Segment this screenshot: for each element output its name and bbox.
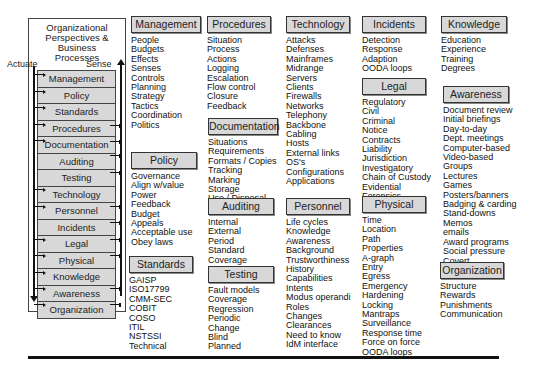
section-title: Incidents [362, 16, 426, 33]
actuate-arrow-line [33, 66, 35, 298]
sense-arrow-icon [110, 222, 120, 223]
list-item: Coverage [208, 256, 274, 265]
sense-arrow-icon [110, 255, 120, 256]
section-personnel: Personnel Life cycles Knowledge Awarenes… [286, 198, 350, 350]
actuate-arrow-icon [34, 239, 44, 240]
section-incidents: Incidents Detection Response Adaption OO… [362, 16, 426, 74]
section-organization: Organization Structure Rewards Punishmen… [440, 262, 504, 320]
layer-policy: Policy [37, 88, 116, 105]
section-title: Auditing [208, 198, 274, 215]
section-documentation: Documentation Situations Requirements Fo… [208, 118, 278, 204]
layer-organization: Organization [37, 302, 116, 319]
layer-management: Management [37, 70, 116, 88]
section-title: Knowledge [441, 16, 507, 33]
actuate-arrow-icon [34, 91, 44, 92]
section-awareness: Awareness Document review Initial briefi… [443, 86, 509, 266]
sense-arrow-line [120, 64, 122, 296]
layer-standards: Standards [37, 104, 116, 121]
sense-arrow-icon [110, 141, 120, 142]
sense-label: Sense [86, 59, 112, 69]
layer-knowledge: Knowledge [37, 269, 116, 286]
section-title: Standards [129, 256, 193, 273]
list-item: Planned [208, 342, 274, 351]
list-item: Feedback [207, 102, 271, 111]
sense-arrow-icon [110, 155, 120, 156]
list-item: Politics [131, 121, 201, 130]
section-title: Documentation [208, 118, 278, 135]
section-testing: Testing Fault models Coverage Regression… [208, 266, 274, 352]
sense-arrow-head-icon [117, 59, 125, 65]
list-item: OODA loops [362, 64, 426, 73]
frame-title: Organizational Perspectives & Business P… [29, 23, 125, 63]
section-legal: Legal Regulatory Civil Criminal Notice C… [362, 78, 426, 201]
section-title: Technology [286, 16, 350, 33]
layer-testing: Testing [37, 170, 116, 187]
actuate-arrow-icon [34, 107, 44, 108]
layer-technology: Technology [37, 187, 116, 204]
section-title: Procedures [207, 16, 271, 33]
actuate-arrow-icon [34, 255, 44, 256]
section-title: Organization [440, 262, 504, 279]
sense-arrow-icon [110, 304, 120, 305]
sense-arrow-icon [110, 239, 120, 240]
list-item: Communication [440, 310, 504, 319]
actuate-arrow-icon [34, 189, 44, 190]
layer-stack: Management Policy Standards Procedures D… [37, 70, 116, 319]
layer-personnel: Personnel [37, 203, 116, 220]
list-item: IdM interface [286, 340, 350, 349]
section-title: Management [131, 16, 201, 33]
section-title: Testing [208, 266, 274, 283]
actuate-arrow-icon [34, 272, 44, 273]
section-title: Personnel [286, 198, 350, 215]
actuate-arrow-icon [34, 124, 44, 125]
layer-legal: Legal [37, 236, 116, 253]
section-title: Legal [362, 78, 426, 95]
section-standards: Standards GAISP ISO17799 CMM-SEC COBIT C… [129, 256, 193, 351]
layer-awareness: Awareness [37, 286, 116, 303]
actuate-arrow-icon [34, 304, 44, 305]
section-knowledge: Knowledge Education Experience Training … [441, 16, 507, 74]
section-auditing: Auditing Internal External Period Standa… [208, 198, 274, 265]
section-title: Awareness [443, 86, 509, 103]
sense-arrow-icon [110, 125, 120, 126]
layer-auditing: Auditing [37, 154, 116, 171]
section-title: Physical [362, 196, 426, 213]
layer-incidents: Incidents [37, 220, 116, 237]
section-procedures: Procedures Situation Process Actions Log… [207, 16, 271, 111]
layer-procedures: Procedures [37, 121, 116, 138]
actuate-arrow-icon [34, 140, 44, 141]
section-policy: Policy Governance Align w/value Power Fe… [131, 152, 197, 247]
actuate-arrow-icon [34, 288, 44, 289]
list-item: Technical [129, 342, 193, 351]
layer-documentation: Documentation [37, 137, 116, 154]
list-item: Obey laws [131, 238, 197, 247]
section-management: Management People Budgets Effects Senses… [131, 16, 201, 130]
list-item: Degrees [441, 64, 507, 73]
list-item: Applications [286, 177, 350, 186]
actuate-arrow-icon [34, 74, 44, 75]
sense-arrow-icon [110, 288, 120, 289]
sense-arrow-icon [110, 172, 120, 173]
section-title: Policy [131, 152, 197, 169]
bottom-divider [28, 356, 499, 359]
actuate-arrow-icon [34, 206, 44, 207]
section-technology: Technology Attacks Defenses Mainframes M… [286, 16, 350, 187]
section-physical: Physical Time Location Path Properties A… [362, 196, 426, 357]
sense-arrow-icon [110, 206, 120, 207]
layer-physical: Physical [37, 253, 116, 270]
